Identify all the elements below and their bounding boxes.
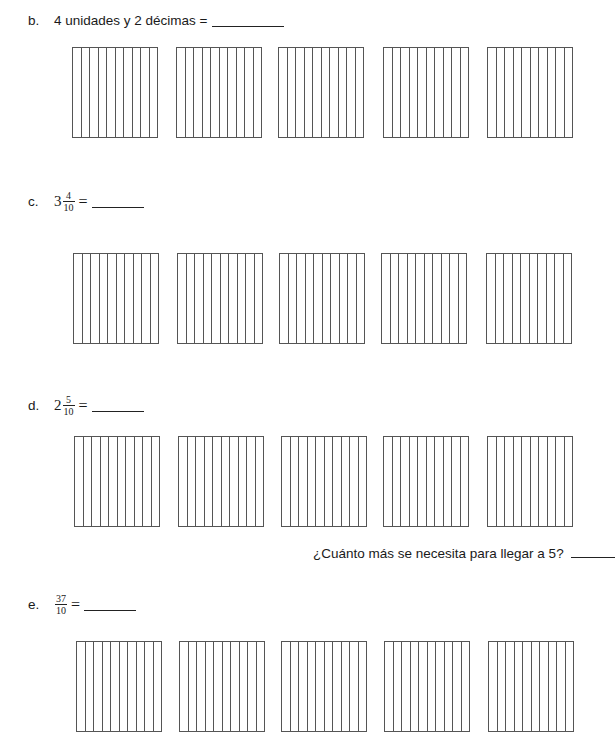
tenth-strip[interactable] (282, 437, 291, 526)
tenths-model-box[interactable] (177, 253, 263, 344)
tenth-strip[interactable] (197, 642, 206, 731)
tenth-strip[interactable] (133, 48, 142, 137)
tenth-strip[interactable] (333, 437, 342, 526)
tenth-strip[interactable] (391, 254, 400, 343)
tenth-strip[interactable] (214, 642, 223, 731)
tenth-strip[interactable] (442, 254, 451, 343)
tenth-strip[interactable] (222, 437, 231, 526)
tenth-strip[interactable] (91, 254, 100, 343)
tenth-strip[interactable] (348, 254, 357, 343)
tenth-strip[interactable] (299, 642, 308, 731)
tenth-strip[interactable] (220, 48, 229, 137)
tenths-model-box[interactable] (486, 253, 572, 344)
tenth-strip[interactable] (461, 437, 469, 526)
tenth-strip[interactable] (240, 642, 249, 731)
tenth-strip[interactable] (530, 254, 539, 343)
tenth-strip[interactable] (99, 48, 108, 137)
tenth-strip[interactable] (382, 254, 391, 343)
tenths-model-box[interactable] (76, 641, 162, 732)
tenth-strip[interactable] (522, 48, 531, 137)
tenth-strip[interactable] (547, 254, 556, 343)
tenth-strip[interactable] (306, 254, 315, 343)
tenth-strip[interactable] (229, 254, 238, 343)
tenth-strip[interactable] (548, 437, 557, 526)
tenth-strip[interactable] (350, 437, 359, 526)
tenth-strip[interactable] (187, 254, 196, 343)
tenth-strip[interactable] (143, 437, 152, 526)
tenth-strip[interactable] (325, 642, 334, 731)
tenth-strip[interactable] (280, 254, 289, 343)
tenth-strip[interactable] (322, 48, 331, 137)
tenth-strip[interactable] (418, 437, 427, 526)
tenth-strip[interactable] (238, 254, 247, 343)
tenth-strip[interactable] (402, 642, 411, 731)
tenth-strip[interactable] (308, 642, 317, 731)
tenth-strip[interactable] (84, 437, 93, 526)
tenth-strip[interactable] (555, 254, 564, 343)
tenth-strip[interactable] (410, 48, 419, 137)
tenth-strip[interactable] (539, 437, 548, 526)
tenth-strip[interactable] (350, 642, 359, 731)
tenth-strip[interactable] (347, 48, 356, 137)
tenth-strip[interactable] (120, 642, 129, 731)
tenth-strip[interactable] (141, 48, 150, 137)
tenth-strip[interactable] (333, 642, 342, 731)
tenth-strip[interactable] (75, 437, 84, 526)
tenth-strip[interactable] (179, 437, 188, 526)
tenth-strip[interactable] (151, 254, 159, 343)
tenth-strip[interactable] (487, 254, 496, 343)
tenth-strip[interactable] (359, 642, 367, 731)
tenth-strip[interactable] (450, 254, 459, 343)
tenths-model-box[interactable] (281, 641, 367, 732)
tenth-strip[interactable] (282, 642, 291, 731)
tenth-strip[interactable] (462, 642, 470, 731)
tenth-strip[interactable] (206, 642, 215, 731)
tenth-strip[interactable] (425, 254, 434, 343)
tenth-strip[interactable] (393, 48, 402, 137)
tenth-strip[interactable] (189, 642, 198, 731)
tenth-strip[interactable] (461, 48, 469, 137)
tenth-strip[interactable] (556, 48, 565, 137)
tenth-strip[interactable] (124, 48, 133, 137)
tenth-strip[interactable] (289, 254, 298, 343)
tenth-strip[interactable] (444, 437, 453, 526)
tenths-model-box[interactable] (487, 436, 573, 527)
tenth-strip[interactable] (135, 437, 144, 526)
tenths-model-box[interactable] (178, 436, 264, 527)
tenths-model-box[interactable] (487, 47, 573, 138)
tenth-strip[interactable] (497, 437, 506, 526)
tenths-model-box[interactable] (74, 436, 160, 527)
tenth-strip[interactable] (316, 437, 325, 526)
tenth-strip[interactable] (142, 254, 151, 343)
tenth-strip[interactable] (291, 437, 300, 526)
tenth-strip[interactable] (305, 48, 314, 137)
tenth-strip[interactable] (254, 48, 262, 137)
tenths-model-box[interactable] (383, 436, 469, 527)
tenth-strip[interactable] (186, 48, 195, 137)
tenth-strip[interactable] (73, 48, 82, 137)
tenth-strip[interactable] (489, 642, 498, 731)
tenth-strip[interactable] (82, 48, 91, 137)
tenth-strip[interactable] (488, 437, 497, 526)
tenth-strip[interactable] (316, 642, 325, 731)
tenth-strip[interactable] (299, 437, 308, 526)
tenth-strip[interactable] (203, 48, 212, 137)
tenth-strip[interactable] (410, 437, 419, 526)
tenth-strip[interactable] (498, 642, 507, 731)
tenth-strip[interactable] (549, 642, 558, 731)
tenth-strip[interactable] (539, 48, 548, 137)
tenth-strip[interactable] (74, 254, 83, 343)
tenth-strip[interactable] (411, 642, 420, 731)
tenth-strip[interactable] (107, 48, 116, 137)
tenth-strip[interactable] (418, 48, 427, 137)
tenth-strip[interactable] (384, 48, 393, 137)
tenth-strip[interactable] (188, 437, 197, 526)
tenth-strip[interactable] (223, 642, 232, 731)
tenth-strip[interactable] (83, 254, 92, 343)
tenths-model-box[interactable] (179, 641, 265, 732)
tenth-strip[interactable] (231, 642, 240, 731)
tenth-strip[interactable] (356, 48, 364, 137)
tenth-strip[interactable] (393, 437, 402, 526)
tenth-strip[interactable] (255, 254, 263, 343)
tenth-strip[interactable] (496, 254, 505, 343)
